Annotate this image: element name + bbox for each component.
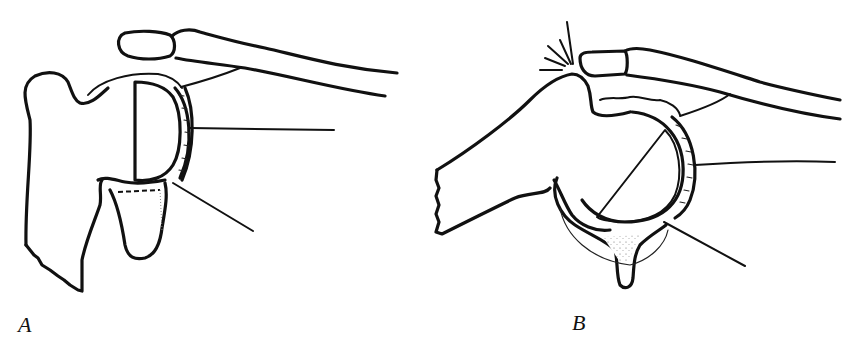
scapula-b xyxy=(436,74,680,234)
humerus-shaft-a xyxy=(98,178,166,258)
shoulder-diagram xyxy=(0,0,857,349)
humeral-head-a xyxy=(135,82,192,180)
panel-label-b: B xyxy=(572,310,585,336)
leader-line-b2 xyxy=(664,222,745,266)
panel-label-a: A xyxy=(18,312,31,338)
glenoid-b xyxy=(554,178,668,288)
impingement-burst-icon xyxy=(540,22,573,70)
leader-line-b1 xyxy=(695,161,835,165)
leader-line-a2 xyxy=(173,183,253,231)
humeral-head-b xyxy=(582,112,695,222)
panel-a xyxy=(25,30,397,291)
panel-b xyxy=(436,22,840,288)
leader-line-a1 xyxy=(190,128,334,130)
clavicle-b xyxy=(580,49,840,119)
